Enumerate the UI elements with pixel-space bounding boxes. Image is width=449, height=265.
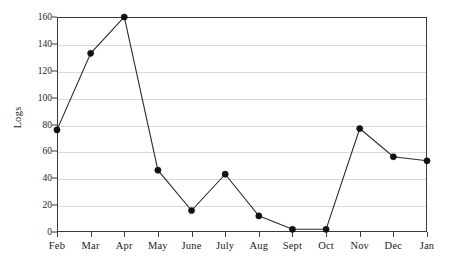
data-point: [289, 226, 295, 232]
data-point: [323, 226, 329, 232]
series-line: [57, 17, 427, 229]
series-markers: [54, 14, 430, 233]
data-point: [121, 14, 127, 20]
line-chart: 020406080100120140160 Logs FebMarAprMayJ…: [0, 0, 449, 265]
data-point: [88, 50, 94, 56]
data-point: [390, 154, 396, 160]
data-point: [54, 127, 60, 133]
data-point: [222, 171, 228, 177]
data-point: [357, 125, 363, 131]
data-point: [424, 158, 430, 164]
data-series: [0, 0, 449, 265]
data-point: [188, 207, 194, 213]
data-point: [155, 167, 161, 173]
data-point: [256, 213, 262, 219]
